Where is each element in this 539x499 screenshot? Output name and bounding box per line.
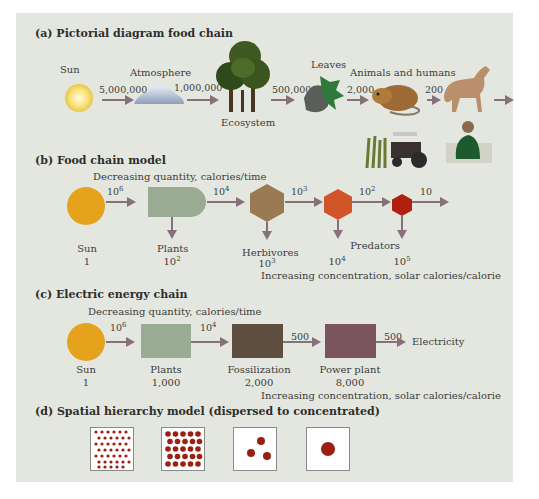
leaves-icon [300,72,346,116]
sun-icon [65,84,93,112]
corn-icon [367,136,385,168]
leaves-label: Leaves [311,59,346,70]
dot [247,449,255,457]
fossilization-value: 2,000 [226,377,292,388]
flow-b-1: 106 [107,186,124,197]
plants-label-b: Plants [157,243,187,254]
tractor-icon [363,130,433,170]
arrow-icon [187,99,217,101]
arrow-down-icon [266,222,268,238]
arrow-icon [494,99,512,101]
atmosphere-label: Atmosphere [130,67,191,78]
flow-b-5: 10 [420,186,432,197]
sun-label-c: Sun [74,364,98,375]
predators-label: Predators [350,240,400,251]
arrow-icon [106,341,133,343]
herbivores-value: 103 [252,258,282,269]
arrow-icon [106,201,134,203]
flow-c-2: 104 [200,322,217,333]
increasing-caption-b: Increasing concentration, solar calories… [261,270,501,281]
arrow-icon [191,341,227,343]
arrow-icon [285,201,321,203]
decreasing-caption-b: Decreasing quantity, calories/time [93,171,267,182]
section-c-title: (c) Electric energy chain [35,288,187,301]
arrow-icon [412,201,447,203]
arrow-icon [376,341,404,343]
sun-value-c: 1 [74,377,98,388]
predator-1-value: 104 [325,256,349,267]
power-plant-value: 8,000 [318,377,382,388]
flow-b-2: 104 [213,186,230,197]
sun-circle [67,187,105,225]
arrow-icon [207,201,243,203]
decreasing-caption-c: Decreasing quantity, calories/time [88,306,262,317]
predator-hexagon-1 [324,189,352,220]
plants-box [141,324,191,358]
plants-value-c: 1,000 [148,377,184,388]
power-plant-label: Power plant [318,364,382,375]
ecosystem-label: Ecosystem [221,117,275,128]
plants-tank [148,187,206,217]
flow-b-4: 102 [359,186,376,197]
dot [321,442,335,456]
herbivores-hexagon [250,184,284,222]
flow-b-3: 103 [291,186,308,197]
arrow-icon [352,201,389,203]
dot [257,437,265,445]
flow-c-1: 106 [110,322,127,333]
wolf-icon [438,62,494,116]
increasing-caption-c: Increasing concentration, solar calories… [261,390,501,401]
three-dots-box [233,427,277,471]
sun-circle [67,323,105,361]
electricity-label: Electricity [412,336,464,347]
small-dots-pattern [91,428,133,470]
arrow-icon [102,99,132,101]
plants-label-c: Plants [148,364,184,375]
sun-label: Sun [60,64,80,75]
dispersed-box-1 [90,427,134,471]
arrow-down-icon [337,220,339,237]
section-d-title: (d) Spatial hierarchy model (dispersed t… [35,405,380,418]
person-icon [450,119,486,163]
arrow-icon [347,99,367,101]
dot [263,452,271,460]
medium-dots-pattern [162,428,204,470]
power-plant-box [325,324,376,358]
fossilization-box [232,324,283,358]
predator-2-value: 105 [390,256,414,267]
herbivores-label: Herbivores [242,247,292,258]
sun-value-b: 1 [75,256,99,267]
plants-value-b: 102 [157,256,187,267]
arrow-down-icon [171,217,173,237]
arrow-icon [283,341,319,343]
arrow-down-icon [401,216,403,237]
predator-hexagon-2 [392,194,412,216]
section-b-title: (b) Food chain model [35,154,166,167]
one-dot-box [306,427,350,471]
section-a-title: (a) Pictorial diagram food chain [35,27,233,40]
trees-icon [215,38,271,114]
dispersed-box-2 [161,427,205,471]
arrow-icon [271,99,293,101]
mouse-icon [370,80,428,118]
sun-label-b: Sun [75,243,99,254]
fossilization-label: Fossilization [226,364,292,375]
